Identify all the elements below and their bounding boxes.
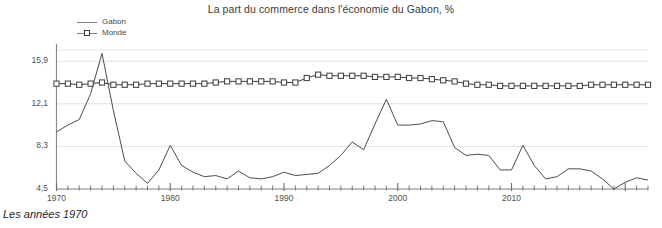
x-axis-ticks — [57, 183, 649, 191]
data-point-marker — [509, 83, 514, 88]
data-point-marker — [372, 74, 377, 79]
data-point-marker — [350, 73, 355, 78]
data-point-marker — [589, 82, 594, 87]
data-point-marker — [145, 81, 150, 86]
data-point-marker — [259, 79, 264, 84]
data-point-marker — [554, 83, 559, 88]
data-point-marker — [156, 81, 161, 86]
data-point-marker — [327, 73, 332, 78]
y-tick-label: 4,5 — [14, 183, 48, 193]
figure-caption: Les années 1970 — [3, 208, 87, 220]
chart-figure: La part du commerce dans l'économie du G… — [0, 0, 662, 228]
data-point-marker — [168, 81, 173, 86]
data-point-marker — [441, 78, 446, 83]
data-point-marker — [99, 80, 104, 85]
data-point-marker — [418, 75, 423, 80]
data-point-marker — [247, 79, 252, 84]
data-point-marker — [122, 82, 127, 87]
axis-lines — [57, 44, 649, 189]
x-tick-label: 2010 — [492, 193, 532, 203]
data-point-marker — [304, 75, 309, 80]
data-point-marker — [293, 80, 298, 85]
data-point-marker — [270, 79, 275, 84]
x-tick-label: 1990 — [264, 193, 304, 203]
data-point-marker — [65, 81, 70, 86]
x-tick-label: 2000 — [378, 193, 418, 203]
data-point-marker — [384, 74, 389, 79]
data-point-marker — [566, 83, 571, 88]
data-point-marker — [611, 82, 616, 87]
plot-canvas — [0, 0, 662, 228]
data-point-marker — [623, 82, 628, 87]
data-point-marker — [77, 82, 82, 87]
data-point-marker — [486, 82, 491, 87]
data-point-marker — [54, 81, 59, 86]
data-point-marker — [202, 81, 207, 86]
data-point-marker — [395, 74, 400, 79]
data-series-layer — [54, 53, 651, 189]
data-point-marker — [600, 82, 605, 87]
data-point-marker — [338, 73, 343, 78]
data-point-marker — [520, 83, 525, 88]
data-point-marker — [316, 72, 321, 77]
data-point-marker — [452, 79, 457, 84]
data-point-marker — [111, 82, 116, 87]
x-tick-label: 1980 — [150, 193, 190, 203]
data-point-marker — [498, 83, 503, 88]
data-point-marker — [532, 83, 537, 88]
data-point-marker — [361, 73, 366, 78]
data-point-marker — [475, 82, 480, 87]
gridlines — [57, 50, 649, 189]
data-point-marker — [407, 75, 412, 80]
y-tick-label: 12,1 — [14, 98, 48, 108]
data-point-marker — [634, 82, 639, 87]
data-point-marker — [645, 82, 650, 87]
data-point-marker — [236, 79, 241, 84]
data-point-marker — [213, 80, 218, 85]
y-tick-label: 15,9 — [14, 55, 48, 65]
data-point-marker — [577, 83, 582, 88]
x-tick-label: 1970 — [37, 193, 77, 203]
y-tick-label: 8,3 — [14, 140, 48, 150]
data-point-marker — [543, 83, 548, 88]
data-point-marker — [88, 81, 93, 86]
data-point-marker — [429, 77, 434, 82]
data-point-marker — [225, 79, 230, 84]
data-point-marker — [190, 81, 195, 86]
data-point-marker — [134, 82, 139, 87]
data-point-marker — [463, 81, 468, 86]
data-point-marker — [179, 81, 184, 86]
data-point-marker — [281, 80, 286, 85]
